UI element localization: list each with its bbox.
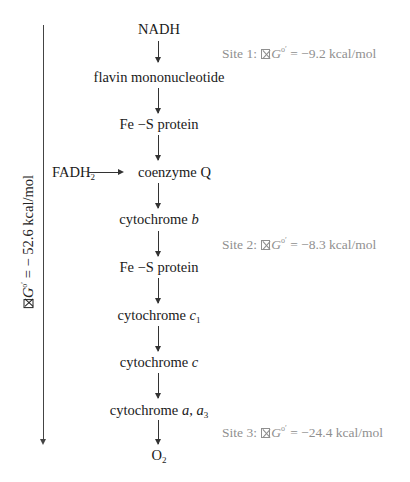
equals: = [287, 425, 301, 440]
node-label: flavin mononucleotide [94, 69, 225, 85]
node-label: Fe −S protein [119, 116, 198, 132]
right-arrow-icon [88, 172, 122, 173]
node-label-italic: a [196, 402, 203, 418]
node-cytochrome-c: cytochrome c [120, 353, 199, 371]
down-arrow-icon [158, 135, 159, 160]
down-arrow-icon [158, 420, 159, 444]
equals: = [287, 237, 301, 252]
node-label-italic: b [191, 211, 198, 227]
subscript: 3 [204, 410, 209, 420]
site-3-label: Site 3: Go′ = −24.4 kcal/mol [222, 421, 383, 441]
down-arrow-icon [158, 373, 159, 398]
node-label: NADH [138, 21, 180, 37]
node-fe-s-protein-1: Fe −S protein [119, 115, 198, 133]
equals: = [20, 266, 36, 281]
site-value: −9.2 kcal/mol [301, 46, 376, 61]
node-coenzyme-q: coenzyme Q [138, 163, 211, 181]
total-energy-arrow [43, 25, 44, 443]
down-arrow-icon [158, 88, 159, 113]
node-label: Fe −S protein [119, 259, 198, 275]
separator: , [189, 402, 196, 418]
delta-glyph-icon [261, 240, 270, 250]
node-label: FADH [52, 164, 90, 180]
node-label: cytochrome [110, 402, 182, 418]
site-value: −8.3 kcal/mol [301, 237, 376, 252]
g-symbol: G [271, 425, 281, 440]
g-symbol: G [271, 237, 281, 252]
node-o2: O2 [152, 446, 167, 469]
g-symbol: G [20, 288, 36, 298]
node-fadh2: FADH2 [52, 163, 95, 186]
equals: = [287, 46, 301, 61]
node-flavin-mononucleotide: flavin mononucleotide [94, 68, 225, 86]
delta-glyph-icon [261, 49, 270, 59]
g-symbol: G [271, 46, 281, 61]
node-nadh: NADH [138, 20, 180, 38]
total-value: − 52.6 kcal/mol [20, 175, 36, 267]
down-arrow-icon [158, 326, 159, 351]
node-label: coenzyme Q [138, 164, 211, 180]
superscript: o′ [20, 282, 29, 288]
node-cytochrome-a-a3: cytochrome a, a3 [110, 401, 208, 424]
down-arrow-icon [158, 231, 159, 256]
subscript: 1 [196, 315, 201, 325]
down-arrow-icon [158, 278, 159, 303]
node-label: cytochrome [119, 211, 191, 227]
node-label: cytochrome [120, 354, 192, 370]
subscript: 2 [90, 172, 95, 182]
node-label: O [152, 447, 162, 463]
down-arrow-icon [158, 183, 159, 208]
site-prefix: Site 2: [222, 237, 260, 252]
delta-glyph-icon [261, 428, 270, 438]
site-value: −24.4 kcal/mol [301, 425, 383, 440]
site-1-label: Site 1: Go′ = −9.2 kcal/mol [222, 42, 376, 62]
node-fe-s-protein-2: Fe −S protein [119, 258, 198, 276]
site-prefix: Site 1: [222, 46, 260, 61]
site-2-label: Site 2: Go′ = −8.3 kcal/mol [222, 233, 376, 253]
node-label-italic: c [192, 354, 198, 370]
total-energy-label: Go′ = − 52.6 kcal/mol [20, 175, 37, 309]
down-arrow-icon [158, 41, 159, 62]
delta-glyph-icon [24, 299, 34, 308]
site-prefix: Site 3: [222, 425, 260, 440]
node-cytochrome-c1: cytochrome c1 [117, 306, 200, 329]
node-label: cytochrome [117, 307, 189, 323]
node-cytochrome-b: cytochrome b [119, 210, 198, 228]
subscript: 2 [162, 455, 167, 465]
